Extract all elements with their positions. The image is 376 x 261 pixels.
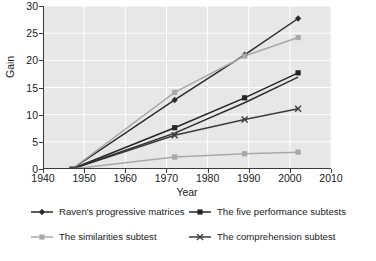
x-tick-label: 1960 — [114, 173, 137, 184]
y-tick — [39, 115, 43, 116]
y-axis-line — [43, 6, 44, 169]
y-tick-label: 30 — [26, 1, 38, 12]
legend-label: The comprehension subtest — [217, 232, 335, 242]
legend-label: The five performance subtests — [217, 207, 346, 217]
legend-marker-square-icon — [30, 232, 54, 242]
chart-legend: Raven's progressive matricesThe five per… — [30, 207, 360, 242]
legend-marker-diamond-icon — [30, 207, 54, 217]
legend-item[interactable]: Raven's progressive matrices — [30, 207, 188, 217]
y-tick-label: 25 — [26, 28, 38, 39]
line-chart: 051015202530 194019501960197019801990200… — [0, 0, 376, 261]
x-tick-label: 1950 — [72, 173, 95, 184]
x-tick-label: 1990 — [237, 173, 260, 184]
legend-item[interactable]: The comprehension subtest — [188, 232, 360, 242]
y-tick — [39, 6, 43, 7]
legend-label: The similarities subtest — [59, 232, 157, 242]
x-tick-label: 2010 — [319, 173, 342, 184]
y-axis-title: Gain — [4, 56, 16, 78]
data-series-layer — [43, 6, 331, 169]
x-axis-line — [43, 168, 331, 169]
x-tick-label: 1970 — [155, 173, 178, 184]
y-tick-label: 5 — [32, 137, 38, 148]
legend-marker-square-icon — [188, 207, 212, 217]
y-tick — [39, 142, 43, 143]
legend-marker-x-icon — [188, 232, 212, 242]
y-tick — [39, 33, 43, 34]
plot-area: 051015202530 194019501960197019801990200… — [43, 6, 331, 169]
legend-item[interactable]: The similarities subtest — [30, 232, 188, 242]
legend-label: Raven's progressive matrices — [59, 207, 185, 217]
x-axis-title: Year — [43, 186, 331, 198]
y-tick-label: 10 — [26, 109, 38, 120]
x-tick-label: 2000 — [278, 173, 301, 184]
y-tick-label: 15 — [26, 82, 38, 93]
x-tick-label: 1940 — [31, 173, 54, 184]
y-tick — [39, 60, 43, 61]
y-tick-label: 20 — [26, 55, 38, 66]
legend-item[interactable]: The five performance subtests — [188, 207, 360, 217]
x-tick-label: 1980 — [196, 173, 219, 184]
y-tick — [39, 88, 43, 89]
